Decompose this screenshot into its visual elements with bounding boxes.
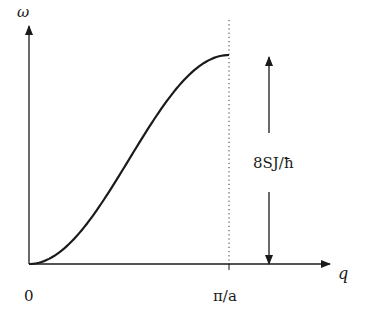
origin-label: 0 <box>24 287 34 305</box>
x-axis-label: q <box>338 264 348 283</box>
x-max-label: π/a <box>213 287 237 305</box>
amplitude-label: 8SJ/ħ <box>253 154 294 172</box>
dispersion-chart: ω q 0 π/a 8SJ/ħ <box>0 0 366 320</box>
dispersion-curve <box>29 55 229 264</box>
y-axis-label: ω <box>17 3 29 21</box>
